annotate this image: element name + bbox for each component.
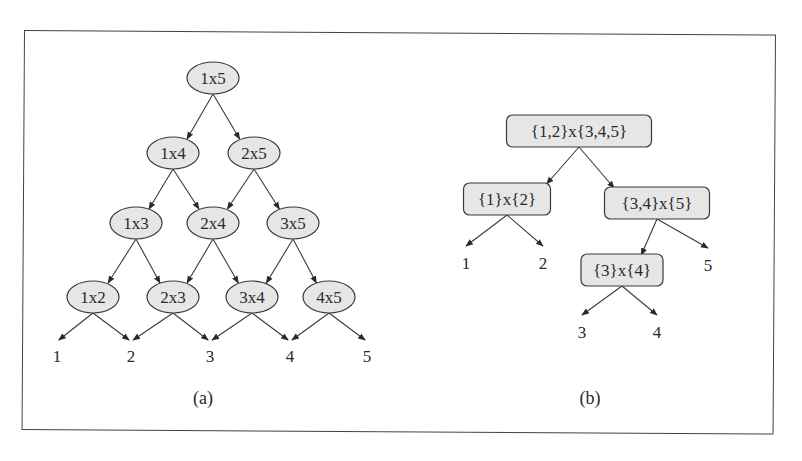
- tree-diagram: 1x51x42x51x32x43x51x22x33x44x512345 {1,2…: [0, 0, 802, 461]
- node-label: 4x5: [316, 288, 342, 307]
- node-2x3: 2x3: [147, 281, 199, 313]
- edge-l-1: [466, 215, 507, 246]
- edge-r-rl: [641, 219, 657, 255]
- node-label: {3}x{4}: [593, 261, 651, 280]
- edge-1x2-1: [59, 313, 93, 340]
- node-label: 2x5: [241, 144, 267, 163]
- edge-1x3-2x3: [136, 239, 160, 283]
- edge-2x3-2: [133, 313, 173, 340]
- node-2x5: 2x5: [228, 137, 280, 169]
- node-1x2: 1x2: [67, 281, 119, 313]
- node-label: 1x2: [80, 288, 106, 307]
- leaf-1: 1: [53, 347, 62, 366]
- edge-1x5-1x4: [187, 94, 213, 139]
- edge-3x5-3x4: [266, 239, 293, 283]
- node-rl: {3}x{4}: [581, 254, 663, 286]
- leaf-4: 4: [653, 323, 662, 342]
- node-label: 1x3: [123, 214, 149, 233]
- edge-rl-4: [622, 286, 657, 315]
- node-label: 3x5: [280, 214, 306, 233]
- edge-1x3-1x2: [108, 239, 136, 283]
- node-label: 2x3: [160, 288, 186, 307]
- edge-2x5-3x5: [254, 169, 279, 209]
- node-1x3: 1x3: [110, 207, 162, 239]
- edge-1x5-2x5: [213, 94, 240, 139]
- edge-2x3-3: [173, 313, 208, 340]
- caption-a: (a): [193, 388, 213, 409]
- edge-r-5: [657, 219, 708, 248]
- node-2x4: 2x4: [187, 207, 239, 239]
- node-root: {1,2}x{3,4,5}: [507, 115, 652, 147]
- edge-root-r: [579, 147, 614, 188]
- edge-3x5-4x5: [293, 239, 316, 283]
- edge-4x5-4: [292, 313, 329, 340]
- node-label: 2x4: [200, 214, 226, 233]
- edge-4x5-5: [329, 313, 365, 340]
- edge-root-l: [547, 147, 579, 184]
- edge-rl-3: [582, 286, 622, 315]
- edge-2x4-3x4: [213, 239, 238, 283]
- node-4x5: 4x5: [303, 281, 355, 313]
- caption-b: (b): [580, 388, 601, 409]
- edge-1x4-2x4: [173, 169, 199, 209]
- leaf-2: 2: [539, 254, 548, 273]
- leaf-3: 3: [206, 347, 215, 366]
- leaf-1: 1: [462, 254, 471, 273]
- leaf-3: 3: [578, 323, 587, 342]
- node-3x4: 3x4: [226, 281, 278, 313]
- node-r: {3,4}x{5}: [605, 187, 710, 219]
- panel-b-tree: {1,2}x{3,4,5}{1}x{2}{3,4}x{5}{3}x{4}1253…: [462, 115, 713, 342]
- node-label: 1x5: [200, 69, 226, 88]
- node-3x5: 3x5: [267, 207, 319, 239]
- edge-l-2: [507, 215, 543, 246]
- node-label: {1,2}x{3,4,5}: [531, 122, 627, 141]
- leaf-5: 5: [363, 347, 372, 366]
- node-1x5: 1x5: [187, 62, 239, 94]
- edge-3x4-4: [252, 313, 288, 340]
- edge-1x4-1x3: [149, 169, 173, 209]
- node-label: {1}x{2}: [478, 190, 536, 209]
- leaf-4: 4: [286, 347, 295, 366]
- edge-1x2-2: [93, 313, 129, 340]
- edge-2x4-2x3: [187, 239, 213, 283]
- node-label: 1x4: [160, 144, 186, 163]
- leaf-5: 5: [704, 256, 713, 275]
- node-l: {1}x{2}: [464, 183, 551, 215]
- node-label: {3,4}x{5}: [622, 194, 693, 213]
- edge-2x5-2x4: [227, 169, 254, 209]
- edge-3x4-3: [212, 313, 252, 340]
- node-label: 3x4: [239, 288, 265, 307]
- panel-a-dag: 1x51x42x51x32x43x51x22x33x44x512345: [53, 62, 372, 366]
- node-1x4: 1x4: [147, 137, 199, 169]
- leaf-2: 2: [127, 347, 136, 366]
